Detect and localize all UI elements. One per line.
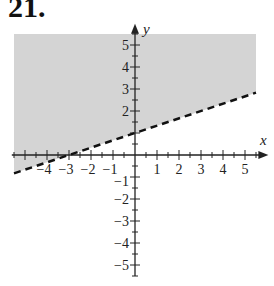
y-tick-label: 2: [122, 104, 129, 119]
y-tick-label: 5: [122, 38, 129, 53]
x-axis-label: x: [259, 132, 267, 148]
y-tick-label: −2: [114, 192, 129, 207]
y-tick-label: 4: [122, 60, 129, 75]
x-tick-label: 2: [176, 162, 183, 177]
x-tick-label: −3: [59, 162, 74, 177]
y-tick-label: −3: [114, 214, 129, 229]
y-tick-label: −1: [114, 174, 129, 189]
inequality-graph: −4−3−2−112345−5−4−3−2−12345xy: [0, 0, 274, 286]
y-tick-label: 3: [122, 82, 129, 97]
x-tick-label: 3: [198, 162, 205, 177]
y-axis-arrow-icon: [131, 24, 139, 34]
x-tick-label: 1: [154, 162, 161, 177]
y-tick-label: −4: [114, 236, 129, 251]
x-tick-label: −2: [81, 162, 96, 177]
y-axis-label: y: [141, 21, 150, 37]
x-tick-label: 4: [220, 162, 227, 177]
x-axis-arrow-icon: [258, 151, 268, 159]
y-tick-label: −5: [114, 258, 129, 273]
x-tick-label: 5: [242, 162, 249, 177]
